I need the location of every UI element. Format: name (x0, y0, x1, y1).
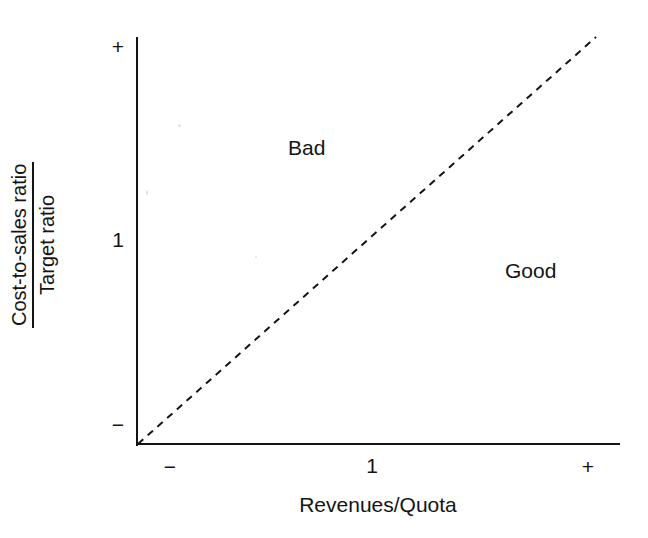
chart-figure: + 1 − − 1 + Bad Good Cost-to-sales ratio… (0, 0, 648, 538)
scan-speckle (146, 190, 148, 195)
x-axis-tick-one: 1 (357, 455, 387, 476)
x-axis-tick-plus: + (573, 456, 603, 477)
scan-speckle (255, 256, 257, 258)
y-axis-title-denominator: Target ratio (34, 162, 59, 328)
region-label-good: Good (505, 259, 556, 283)
y-axis-tick-plus: + (98, 36, 124, 57)
x-axis-tick-minus: − (155, 456, 185, 477)
y-axis-line (136, 37, 138, 446)
y-axis-tick-minus: − (98, 414, 124, 435)
y-axis-tick-one: 1 (98, 229, 124, 250)
x-axis-title: Revenues/Quota (0, 493, 648, 517)
y-axis-title-container: Cost-to-sales ratio Target ratio (7, 128, 67, 328)
scan-speckle (178, 124, 181, 127)
x-axis-line (136, 443, 620, 445)
region-label-bad: Bad (288, 136, 325, 160)
y-axis-title: Cost-to-sales ratio Target ratio (7, 162, 59, 328)
y-axis-title-numerator: Cost-to-sales ratio (7, 162, 34, 328)
